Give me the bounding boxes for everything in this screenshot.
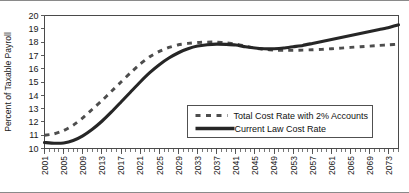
x-axis-tick-label: 2041 — [231, 156, 241, 175]
x-axis-tick-label: 2037 — [212, 156, 222, 175]
x-axis-tick-label: 2069 — [365, 156, 375, 175]
x-axis-tick-label: 2033 — [193, 156, 203, 175]
legend-label: Total Cost Rate with 2% Accounts — [234, 111, 369, 121]
x-axis-tick-label: 2061 — [327, 156, 337, 175]
y-axis-tick-label: 12 — [28, 117, 38, 127]
y-axis-tick-group: 2019181716151413121110 — [28, 11, 44, 154]
y-axis-tick-label: 18 — [28, 37, 38, 47]
chart-plot-area: 2019181716151413121110 20012005200920132… — [0, 1, 409, 193]
y-axis-tick-label: 19 — [28, 24, 38, 34]
y-axis-title-text: Percent of Taxable Payroll — [3, 32, 13, 132]
x-axis-tick-label: 2021 — [135, 156, 145, 175]
y-axis-tick-label: 13 — [28, 104, 38, 114]
x-axis-tick-label: 2013 — [97, 156, 107, 175]
y-axis-tick-label: 11 — [29, 130, 38, 140]
x-axis-tick-label: 2053 — [289, 156, 299, 175]
x-axis-tick-label: 2001 — [40, 156, 50, 175]
x-axis-tick-label: 2065 — [346, 156, 356, 175]
x-axis-tick-group: 2001200520092013201720212025202920332037… — [40, 149, 399, 175]
x-axis-tick-label: 2005 — [59, 156, 69, 175]
legend-label: Current Law Cost Rate — [235, 124, 327, 134]
y-axis-title: Percent of Taxable Payroll — [3, 32, 13, 132]
x-axis-tick-label: 2017 — [116, 156, 126, 175]
x-axis-tick-label: 2049 — [269, 156, 279, 175]
y-axis-tick-label: 16 — [28, 64, 38, 74]
chart-figure: 2019181716151413121110 20012005200920132… — [0, 0, 409, 193]
x-axis-tick-label: 2045 — [250, 156, 260, 175]
x-axis-tick-label: 2009 — [78, 156, 88, 175]
y-axis-tick-label: 10 — [28, 144, 38, 154]
x-axis-tick-label: 2029 — [174, 156, 184, 175]
x-axis-tick-label: 2025 — [155, 156, 165, 175]
y-axis-tick-label: 14 — [28, 91, 38, 101]
y-axis-tick-label: 15 — [28, 77, 38, 87]
x-axis-tick-label: 2057 — [308, 156, 318, 175]
chart-legend: Total Cost Rate with 2% AccountsCurrent … — [188, 106, 373, 138]
y-axis-tick-label: 17 — [28, 51, 38, 61]
x-axis-tick-label: 2073 — [384, 156, 394, 175]
y-axis-tick-label: 20 — [28, 11, 38, 21]
